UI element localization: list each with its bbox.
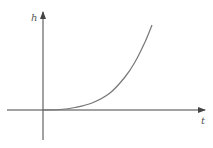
- x-axis-label: t: [201, 115, 206, 126]
- h-curve: [43, 25, 152, 110]
- chart: h t: [0, 0, 213, 148]
- y-axis-label: h: [31, 12, 37, 23]
